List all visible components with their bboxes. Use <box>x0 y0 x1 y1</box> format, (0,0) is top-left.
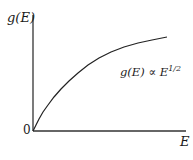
x-axis-label: E <box>180 134 190 149</box>
formula-text: g(E) ∝ E <box>120 65 168 79</box>
y-axis-label: g(E) <box>7 10 35 25</box>
formula-exponent: 1/2 <box>168 64 181 73</box>
origin-label: 0 <box>23 123 31 137</box>
formula-annotation: g(E) ∝ E1/2 <box>120 64 181 79</box>
sqrt-curve <box>33 37 167 131</box>
